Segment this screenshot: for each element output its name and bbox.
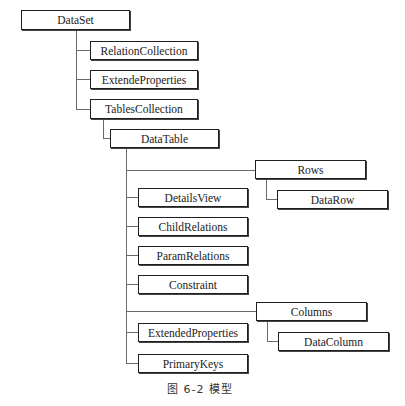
connector-rows-trunk: [266, 179, 267, 200]
node-extended-properties: ExtendedProperties: [138, 323, 248, 342]
node-data-table: DataTable: [110, 129, 219, 148]
connector-tablescollection: [76, 109, 90, 110]
node-columns: Columns: [256, 302, 367, 321]
connector-constraint: [126, 284, 138, 285]
node-relation-collection: RelationCollection: [90, 41, 198, 60]
connector-primarykeys: [126, 363, 138, 364]
node-dataset: DataSet: [21, 10, 130, 30]
connector-dataset-trunk: [76, 30, 77, 110]
node-child-relations: ChildRelations: [138, 217, 248, 236]
node-constraint: Constraint: [138, 275, 248, 294]
node-extende-properties: ExtendeProperties: [90, 70, 198, 89]
node-tables-collection: TablesCollection: [90, 99, 198, 119]
connector-rows: [126, 170, 255, 171]
connector-datarow: [266, 199, 277, 200]
connector-relationcollection: [76, 50, 90, 51]
connector-childrelations: [126, 226, 138, 227]
connector-datacolumn: [267, 341, 278, 342]
connector-detailsview: [126, 197, 138, 198]
node-details-view: DetailsView: [138, 188, 248, 207]
node-data-column: DataColumn: [278, 332, 389, 351]
node-primary-keys: PrimaryKeys: [138, 354, 248, 373]
connector-datatable: [103, 138, 110, 139]
node-data-row: DataRow: [277, 190, 388, 209]
connector-extendeproperties: [76, 79, 90, 80]
node-rows: Rows: [255, 160, 366, 179]
figure-caption: 图 6-2 模型: [150, 380, 250, 396]
connector-tablescollection-trunk: [103, 119, 104, 139]
connector-paramrelations: [126, 255, 138, 256]
connector-columns-trunk: [267, 321, 268, 342]
connector-extendedproperties: [126, 332, 138, 333]
connector-columns: [126, 311, 256, 312]
node-param-relations: ParamRelations: [138, 246, 248, 265]
